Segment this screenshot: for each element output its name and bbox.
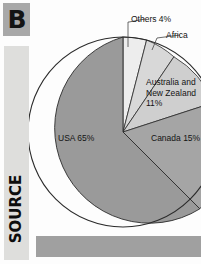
pie-chart: Others 4% Africa Australia and New Zeala… bbox=[0, 0, 201, 264]
source-label: SOURCE bbox=[8, 174, 26, 243]
slice-label-anz-line2: New Zealand bbox=[146, 88, 198, 99]
figure-panel: Others 4% Africa Australia and New Zeala… bbox=[0, 0, 201, 264]
slice-label-others: Others 4% bbox=[131, 14, 171, 24]
slice-label-anz-line3: 11% bbox=[146, 98, 198, 109]
bottom-bar bbox=[36, 236, 201, 257]
slice-label-australia-new-zealand: Australia and New Zealand 11% bbox=[146, 77, 198, 109]
panel-tag-letter: B bbox=[7, 7, 25, 32]
source-label-wrap: SOURCE bbox=[4, 161, 29, 256]
slice-label-anz-line1: Australia and bbox=[146, 77, 198, 88]
slice-label-canada: Canada 15% bbox=[151, 133, 200, 143]
slice-label-usa: USA 65% bbox=[58, 133, 94, 143]
slice-label-africa: Africa bbox=[166, 30, 188, 40]
source-strip: SOURCE bbox=[4, 46, 29, 260]
panel-tag: B bbox=[3, 3, 30, 36]
